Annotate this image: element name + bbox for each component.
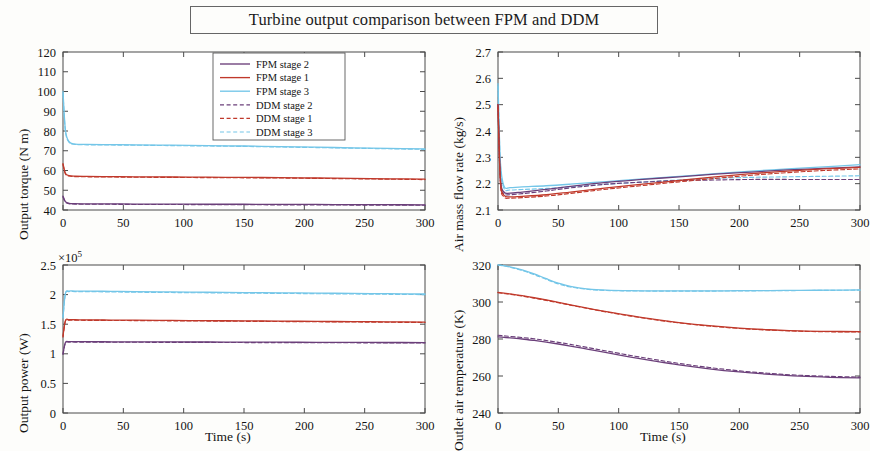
x-tick-label: 300 — [851, 419, 870, 433]
y-tick-label: 1 — [50, 347, 56, 361]
subplot3-y-multiplier: ×105 — [58, 249, 82, 266]
subplot4-ylabel: Outlet air temperature (K) — [451, 310, 467, 451]
y-tick-label: 50 — [44, 184, 57, 198]
y-tick-label: 2.4 — [475, 125, 491, 139]
air-mass-flow-rate-frame — [498, 52, 860, 210]
x-tick-label: 100 — [174, 216, 193, 230]
x-tick-label: 50 — [552, 216, 565, 230]
y-tick-label: 120 — [37, 46, 56, 60]
x-tick-label: 100 — [609, 216, 628, 230]
legend-label-fpm-stage-2: FPM stage 2 — [256, 59, 309, 70]
x-tick-label: 200 — [295, 419, 314, 433]
x-tick-label: 150 — [235, 216, 254, 230]
subplot2-ylabel: Air mass flow rate (kg/s) — [451, 117, 467, 252]
subplot1-plot-area: 050100150200250300405060708090100110120F… — [0, 40, 435, 245]
x-tick-label: 300 — [416, 419, 435, 433]
y-tick-label: 2.5 — [475, 98, 491, 112]
x-tick-label: 250 — [355, 419, 374, 433]
x-tick-label: 300 — [851, 216, 870, 230]
subplot2-plot-area: 0501001502002503002.12.22.32.42.52.62.7 — [435, 40, 870, 245]
subplot-outlet-air-temperature: Outlet air temperature (K) 0501001502002… — [435, 243, 870, 450]
x-tick-label: 150 — [670, 216, 689, 230]
y-tick-label: 280 — [472, 333, 491, 347]
y-tick-label: 2.7 — [475, 46, 491, 60]
y-tick-label: 70 — [44, 144, 57, 158]
x-tick-label: 250 — [355, 216, 374, 230]
subplot3-plot-area: 05010015020025030000.511.522.5 — [0, 243, 435, 450]
legend-label-fpm-stage-3: FPM stage 3 — [256, 86, 309, 97]
x-tick-label: 0 — [495, 216, 501, 230]
x-tick-label: 0 — [60, 419, 66, 433]
x-tick-label: 0 — [495, 419, 501, 433]
subplot3-multiplier-base: ×10 — [58, 251, 78, 265]
x-tick-label: 0 — [60, 216, 66, 230]
outlet-air-temperature-frame — [498, 265, 860, 413]
y-tick-label: 60 — [44, 164, 57, 178]
subplot3-multiplier-exp: 5 — [78, 249, 83, 259]
subplot3-ylabel: Output power (W) — [16, 333, 32, 433]
y-tick-label: 110 — [38, 65, 56, 79]
subplot4-xlabel: Time (s) — [640, 429, 686, 445]
subplot3-xlabel: Time (s) — [205, 429, 251, 445]
y-tick-label: 2.6 — [475, 72, 491, 86]
y-tick-label: 0 — [50, 407, 56, 421]
legend-label-ddm-stage-2: DDM stage 2 — [256, 100, 313, 111]
figure-title-box: Turbine output comparison between FPM an… — [190, 6, 658, 34]
legend-label-fpm-stage-1: FPM stage 1 — [256, 72, 309, 83]
y-tick-label: 0.5 — [40, 377, 56, 391]
output-power-frame — [63, 265, 425, 413]
y-tick-label: 80 — [44, 125, 57, 139]
x-tick-label: 250 — [790, 419, 809, 433]
y-tick-label: 90 — [44, 105, 57, 119]
x-tick-label: 250 — [790, 216, 809, 230]
x-tick-label: 200 — [730, 419, 749, 433]
y-tick-label: 240 — [472, 407, 491, 421]
subplot-air-mass-flow-rate: Air mass flow rate (kg/s) 05010015020025… — [435, 40, 870, 245]
figure-title: Turbine output comparison between FPM an… — [249, 10, 599, 30]
x-tick-label: 300 — [416, 216, 435, 230]
subplot-output-torque: Output torque (N m) 05010015020025030040… — [0, 40, 435, 245]
legend-label-ddm-stage-1: DDM stage 1 — [256, 113, 313, 124]
y-tick-label: 260 — [472, 370, 491, 384]
y-tick-label: 100 — [37, 85, 56, 99]
y-tick-label: 2.2 — [475, 177, 491, 191]
y-tick-label: 2.5 — [40, 259, 56, 273]
x-tick-label: 200 — [730, 216, 749, 230]
y-tick-label: 2.3 — [475, 151, 491, 165]
x-tick-label: 50 — [552, 419, 565, 433]
x-tick-label: 100 — [174, 419, 193, 433]
y-tick-label: 40 — [44, 204, 57, 218]
y-tick-label: 2 — [50, 288, 56, 302]
y-tick-label: 1.5 — [40, 318, 56, 332]
x-tick-label: 100 — [609, 419, 628, 433]
x-tick-label: 200 — [295, 216, 314, 230]
subplot1-ylabel: Output torque (N m) — [16, 129, 32, 240]
y-tick-label: 300 — [472, 296, 491, 310]
subplot-output-power: Output power (W) ×105 050100150200250300… — [0, 243, 435, 450]
subplot4-plot-area: 050100150200250300240260280300320 — [435, 243, 870, 450]
y-tick-label: 320 — [472, 259, 491, 273]
x-tick-label: 50 — [117, 419, 130, 433]
x-tick-label: 50 — [117, 216, 130, 230]
legend-label-ddm-stage-3: DDM stage 3 — [256, 127, 313, 138]
y-tick-label: 2.1 — [475, 204, 491, 218]
